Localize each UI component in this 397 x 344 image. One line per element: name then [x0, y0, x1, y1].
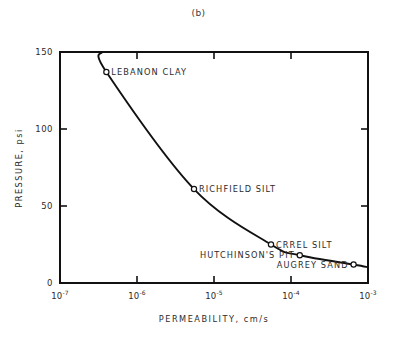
data-point-marker: [351, 262, 356, 267]
y-axis-ticks: [60, 129, 368, 206]
x-tick-label: 10-3: [359, 289, 377, 301]
data-point-labels: LEBANON CLAYRICHFIELD SILTCRREL SILTHUTC…: [111, 67, 348, 270]
data-point-marker: [297, 253, 302, 258]
chart-canvas: 10-710-610-510-410-3 050100150 LEBANON C…: [0, 0, 397, 344]
x-axis-ticks: [137, 52, 291, 283]
data-point-marker: [191, 186, 196, 191]
x-tick-label: 10-6: [128, 289, 146, 301]
x-tick-label: 10-4: [282, 289, 300, 301]
x-axis-tick-labels: 10-710-610-510-410-3: [51, 289, 377, 301]
y-tick-label: 100: [35, 124, 53, 134]
data-point-label: CRREL SILT: [276, 240, 332, 250]
data-point-marker: [104, 69, 109, 74]
data-point-marker: [268, 242, 273, 247]
data-markers: [104, 69, 356, 267]
x-tick-label: 10-7: [51, 289, 69, 301]
x-axis-title: PERMEABILITY, cm/s: [159, 314, 269, 324]
x-tick-label: 10-5: [205, 289, 223, 301]
y-tick-label: 0: [47, 278, 53, 288]
figure-panel: (b) 10-710-610-510-410-3 050100150 LEBAN…: [0, 0, 397, 344]
y-axis-tick-labels: 050100150: [35, 47, 53, 288]
data-curve: [98, 52, 368, 267]
data-point-label: RICHFIELD SILT: [199, 184, 276, 194]
y-tick-label: 150: [35, 47, 53, 57]
data-point-label: LEBANON CLAY: [111, 67, 187, 77]
y-axis-title: PRESSURE, psi: [14, 128, 24, 208]
y-tick-label: 50: [41, 201, 53, 211]
data-point-label: AUGREY SAND: [277, 260, 349, 270]
